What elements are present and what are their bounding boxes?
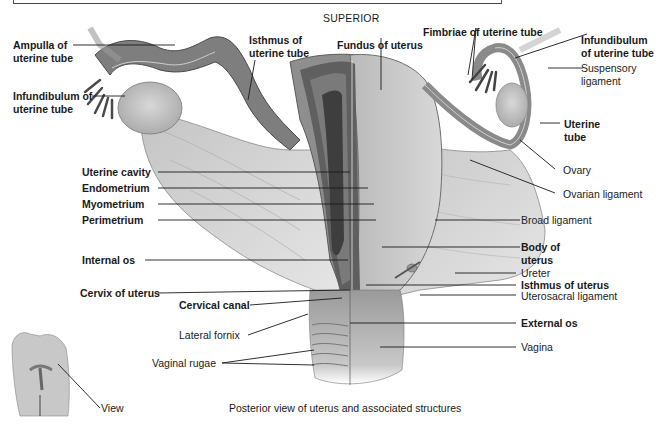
uterus-illustration (0, 0, 671, 426)
label-infundibulum-right: Infundibulumof uterine tube (581, 34, 654, 59)
label-ureter: Ureter (521, 267, 550, 280)
label-ampulla: Ampulla ofuterine tube (13, 39, 73, 64)
inset-view-label: View (101, 402, 124, 415)
label-ovary: Ovary (563, 164, 591, 177)
orientation-label: SUPERIOR (323, 12, 379, 25)
label-infundibulum-left: Infundibulum ofuterine tube (13, 90, 92, 115)
figure-caption: Posterior view of uterus and associated … (229, 402, 461, 415)
label-myometrium: Myometrium (82, 198, 144, 211)
label-external-os: External os (521, 317, 578, 330)
label-fundus: Fundus of uterus (337, 39, 423, 52)
inset-view-figure (12, 333, 69, 416)
label-fimbriae: Fimbriae of uterine tube (423, 26, 543, 39)
label-vagina: Vagina (521, 341, 553, 354)
label-cervix: Cervix of uterus (80, 287, 160, 300)
label-perimetrium: Perimetrium (82, 214, 143, 227)
label-vaginal-rugae: Vaginal rugae (152, 357, 216, 370)
label-uterine-tube: Uterinetube (564, 118, 600, 143)
label-broad-ligament: Broad ligament (521, 214, 592, 227)
label-internal-os: Internal os (82, 254, 135, 267)
label-uterine-cavity: Uterine cavity (82, 166, 151, 179)
label-cervical-canal: Cervical canal (179, 299, 250, 312)
label-body-of-uterus: Body ofuterus (521, 241, 560, 266)
right-uterine-tube-shape (425, 30, 560, 145)
label-suspensory-ligament: Suspensoryligament (581, 62, 636, 87)
label-lateral-fornix: Lateral fornix (179, 329, 240, 342)
label-ovarian-ligament: Ovarian ligament (563, 188, 642, 201)
label-uterosacral-ligament: Uterosacral ligament (521, 290, 617, 303)
label-isthmus-tube: Isthmus ofuterine tube (249, 34, 309, 59)
label-endometrium: Endometrium (82, 182, 150, 195)
